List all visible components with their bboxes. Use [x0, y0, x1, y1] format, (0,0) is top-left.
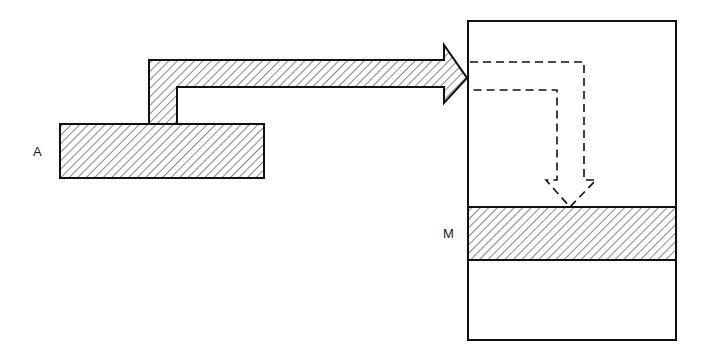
transfer-arrow — [149, 45, 467, 124]
label-a: A — [33, 144, 42, 159]
block-a — [60, 124, 264, 178]
container-box — [468, 21, 676, 340]
region-m — [468, 207, 676, 260]
diagram-canvas — [0, 0, 706, 364]
label-m: M — [443, 226, 454, 241]
dashed-path-arrow — [470, 62, 596, 207]
